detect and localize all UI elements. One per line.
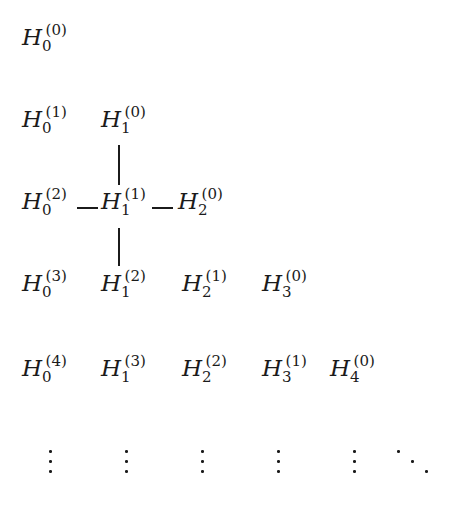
math-term-base: H	[22, 188, 42, 214]
math-term-H1-2: H1(2)	[101, 272, 152, 295]
math-term-superscript: (1)	[286, 352, 307, 370]
math-term-base: H	[101, 355, 121, 381]
math-term-base: H	[101, 270, 121, 296]
math-term-H0-1: H0(1)	[22, 108, 73, 131]
math-term-superscript: (2)	[206, 352, 227, 370]
math-term-H2-1: H2(1)	[182, 272, 233, 295]
math-term-base: H	[101, 188, 121, 214]
math-term-subscript: 0	[42, 368, 52, 386]
connector-vertical-lower	[118, 228, 120, 266]
math-term-superscript: (1)	[206, 267, 227, 285]
math-term-subscript: 0	[42, 119, 52, 137]
vertical-ellipsis-icon	[277, 450, 281, 473]
math-term-base: H	[22, 24, 42, 50]
math-term-superscript: (0)	[354, 352, 375, 370]
math-term-superscript: (0)	[125, 103, 146, 121]
math-term-superscript: (0)	[202, 185, 223, 203]
math-term-superscript: (0)	[286, 267, 307, 285]
math-term-H0-2: H0(2)	[22, 190, 73, 213]
math-term-H0-4: H0(4)	[22, 357, 73, 380]
math-term-base: H	[22, 355, 42, 381]
math-term-H0-0: H0(0)	[22, 26, 73, 49]
math-term-base: H	[262, 270, 282, 296]
math-term-base: H	[182, 270, 202, 296]
vertical-ellipsis-icon	[201, 450, 205, 473]
math-term-base: H	[178, 188, 198, 214]
math-term-H2-2: H2(2)	[182, 357, 233, 380]
math-term-superscript: (2)	[46, 185, 67, 203]
math-term-superscript: (4)	[46, 352, 67, 370]
math-term-base: H	[182, 355, 202, 381]
vertical-ellipsis-icon	[353, 450, 357, 473]
math-array-diagram: H0(0) H0(1) H1(0) H0(2) H1(1) H2(0) H0(3…	[0, 0, 453, 506]
math-term-subscript: 0	[42, 37, 52, 55]
math-term-superscript: (2)	[125, 267, 146, 285]
math-term-subscript: 1	[121, 201, 131, 219]
math-term-subscript: 3	[282, 283, 292, 301]
math-term-base: H	[330, 355, 350, 381]
math-term-base: H	[262, 355, 282, 381]
math-term-subscript: 2	[202, 283, 212, 301]
math-term-subscript: 2	[198, 201, 208, 219]
math-term-H3-0: H3(0)	[262, 272, 313, 295]
math-term-H0-3: H0(3)	[22, 272, 73, 295]
math-term-subscript: 1	[121, 283, 131, 301]
math-term-H3-1: H3(1)	[262, 357, 313, 380]
math-term-subscript: 0	[42, 201, 52, 219]
diagonal-ellipsis-icon	[397, 450, 430, 473]
math-term-superscript: (3)	[125, 352, 146, 370]
connector-vertical-upper	[118, 145, 120, 185]
math-term-H4-0: H4(0)	[330, 357, 381, 380]
math-term-superscript: (1)	[125, 185, 146, 203]
math-term-subscript: 2	[202, 368, 212, 386]
math-term-superscript: (1)	[46, 103, 67, 121]
math-term-H1-3: H1(3)	[101, 357, 152, 380]
vertical-ellipsis-icon	[49, 450, 53, 473]
math-term-H2-0: H2(0)	[178, 190, 229, 213]
math-term-base: H	[101, 106, 121, 132]
math-term-superscript: (3)	[46, 267, 67, 285]
math-term-subscript: 3	[282, 368, 292, 386]
math-term-H1-0: H1(0)	[101, 108, 152, 131]
math-term-H1-1: H1(1)	[101, 190, 152, 213]
math-term-superscript: (0)	[46, 21, 67, 39]
math-term-subscript: 4	[350, 368, 360, 386]
math-term-subscript: 1	[121, 368, 131, 386]
connector-horizontal-right	[152, 207, 173, 209]
math-term-base: H	[22, 106, 42, 132]
math-term-subscript: 1	[121, 119, 131, 137]
vertical-ellipsis-icon	[125, 450, 129, 473]
math-term-base: H	[22, 270, 42, 296]
connector-horizontal-left	[77, 207, 98, 209]
math-term-subscript: 0	[42, 283, 52, 301]
